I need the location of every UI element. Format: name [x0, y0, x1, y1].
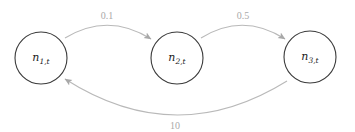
edge-label-n3-n1: 10	[170, 120, 180, 131]
node-label-subscript: 3,t	[308, 56, 318, 65]
transition-diagram: n1,t n2,t n3,t 0.1 0.5 10	[0, 0, 355, 132]
node-label-subscript: 2,t	[175, 57, 185, 66]
node-label-subscript: 1,t	[39, 57, 49, 66]
edge-n2-n3	[201, 25, 285, 39]
node-label-n3: n3,t	[301, 50, 318, 65]
edge-label-n1-n2: 0.1	[101, 10, 114, 21]
edge-label-n2-n3: 0.5	[237, 10, 250, 21]
edge-n1-n2	[65, 25, 151, 39]
diagram-canvas	[0, 0, 355, 132]
node-label-n1: n1,t	[32, 51, 49, 66]
node-label-n2: n2,t	[168, 51, 185, 66]
